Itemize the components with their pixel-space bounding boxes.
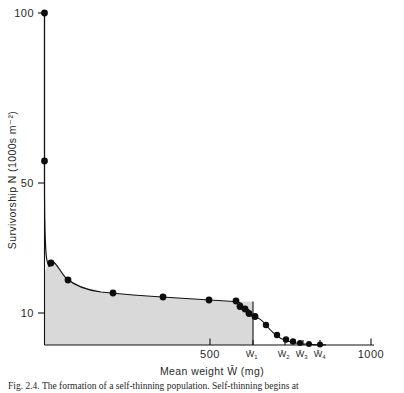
data-point	[160, 294, 167, 301]
data-point	[290, 338, 296, 344]
y-tick-label-10: 10	[21, 307, 34, 319]
survivorship-chart: 100 50 10 500 1000 W̄ 1 W̄ 2 W̄ 3 W̄ 4 M…	[0, 0, 404, 393]
x-tick-label-w4: W̄ 4	[314, 349, 327, 360]
data-point	[283, 336, 289, 342]
x-axis-title: Mean weight W̄ (mg)	[160, 365, 264, 377]
data-point	[48, 260, 55, 267]
data-point	[233, 298, 240, 305]
y-tick-label-50: 50	[21, 177, 34, 189]
data-point	[41, 158, 48, 165]
data-point	[206, 297, 213, 304]
svg-text:1: 1	[254, 354, 258, 360]
y-axis-title: Survivorship N (1000s m⁻²)	[6, 111, 18, 249]
data-point	[246, 310, 253, 317]
x-tick-label-w3: W̄ 3	[296, 349, 309, 360]
svg-text:2: 2	[286, 354, 290, 360]
y-tick-label-100: 100	[14, 7, 34, 19]
x-tick-label-w2: W̄ 2	[278, 349, 291, 360]
data-point	[317, 342, 323, 348]
x-tick-label-500: 500	[200, 348, 220, 360]
data-point	[65, 277, 72, 284]
figure-container: 100 50 10 500 1000 W̄ 1 W̄ 2 W̄ 3 W̄ 4 M…	[0, 0, 404, 393]
data-point	[306, 341, 312, 347]
shaded-cohort-region	[45, 262, 254, 345]
svg-text:3: 3	[304, 354, 308, 360]
figure-caption: Fig. 2.4. The formation of a self-thinni…	[8, 381, 404, 392]
data-point	[110, 290, 117, 297]
data-point	[252, 313, 259, 320]
data-point	[274, 332, 280, 338]
data-point	[263, 322, 269, 328]
svg-text:4: 4	[322, 354, 326, 360]
data-point	[41, 10, 48, 17]
x-tick-label-1000: 1000	[358, 348, 384, 360]
x-tick-label-w1: W̄ 1	[246, 349, 259, 360]
data-point	[297, 340, 303, 346]
